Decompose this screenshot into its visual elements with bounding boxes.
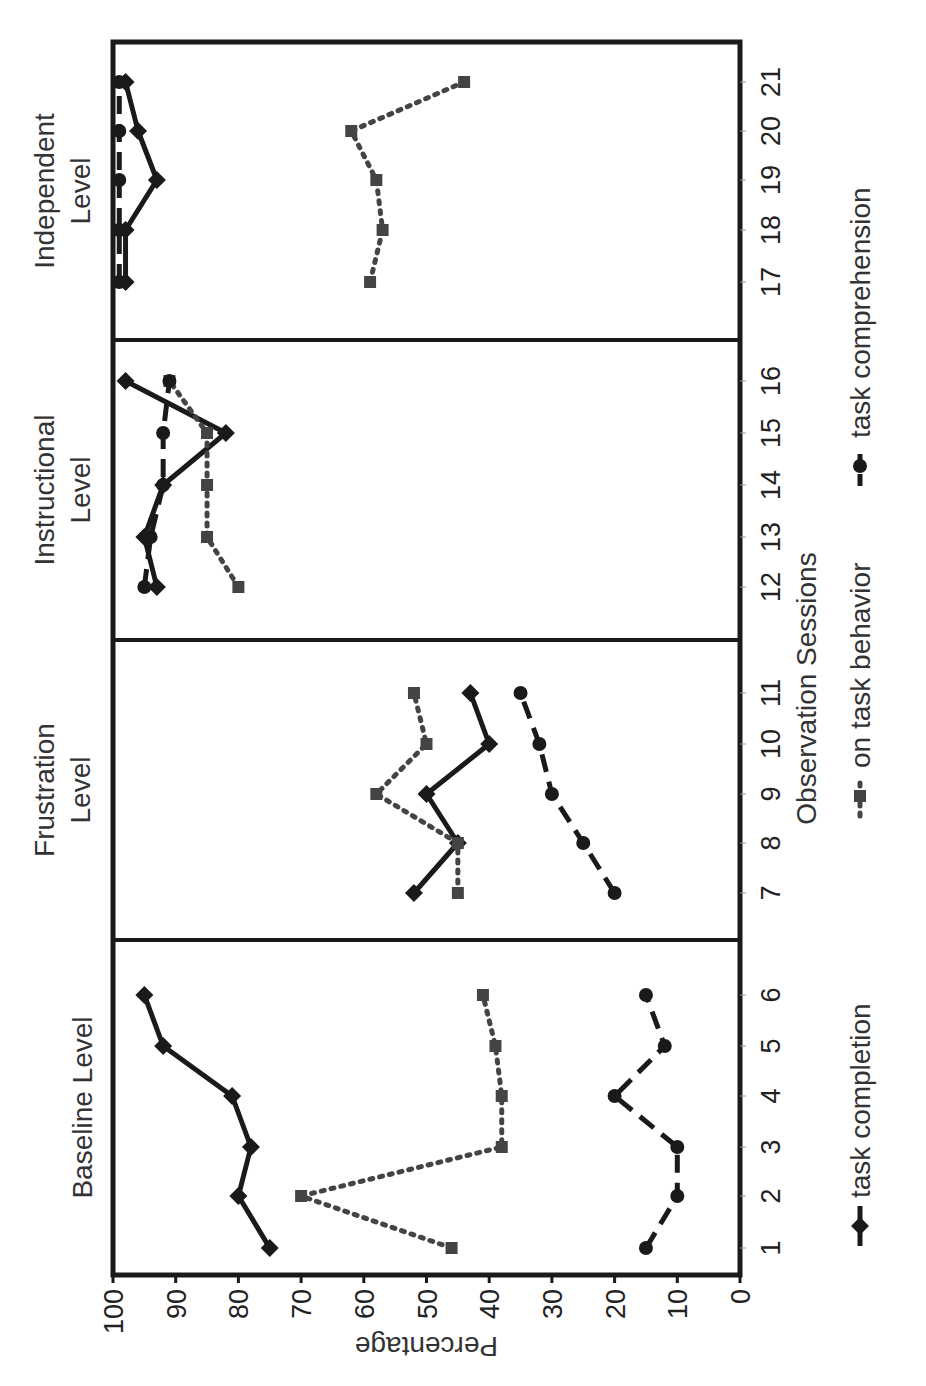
y-tick-label: 40 [475,1289,505,1319]
x-tick-label: 3 [756,1139,786,1154]
data-series [112,73,684,1257]
x-tick-label: 18 [756,215,786,245]
legend-label: on task behavior [845,563,876,768]
x-tick-label: 9 [756,786,786,801]
legend-item: task comprehension [845,187,876,486]
y-tick-label: 60 [350,1289,380,1319]
x-tick-label: 10 [756,729,786,759]
phase-label: Instructional [29,415,60,566]
legend-label: task comprehension [845,187,876,438]
phase-label: Baseline Level [67,1016,98,1198]
x-tick-label: 15 [756,418,786,448]
series-on-task-behavior [163,76,507,1254]
x-tick-label: 2 [756,1188,786,1203]
x-tick-label: 20 [756,116,786,146]
legend: task completionon task behaviortask comp… [845,187,876,1246]
phase-labels: Baseline LevelFrustrationLevelInstructio… [29,113,98,1199]
x-tick-label: 6 [756,987,786,1002]
plot-frame [113,42,740,1275]
y-axis-title: Percentage [355,1331,498,1362]
x-tick-label: 1 [756,1240,786,1255]
series-task-comprehension [112,75,684,1255]
x-tick-label: 14 [756,470,786,500]
legend-item: task completion [845,1003,876,1246]
phase-label: Level [65,457,96,524]
x-tick-label: 13 [756,522,786,552]
rotated-chart: Baseline LevelFrustrationLevelInstructio… [0,0,926,1386]
legend-label: task completion [845,1003,876,1198]
y-tick-label: 10 [663,1289,693,1319]
y-tick-label: 0 [726,1289,756,1304]
x-tick-label: 16 [756,366,786,396]
x-axis-title: Observation Sessions [791,552,822,824]
x-tick-label: 11 [756,679,786,707]
phase-label: Level [65,757,96,824]
x-axis: 123456789101112131415161718192021 [740,67,786,1256]
x-tick-label: 4 [756,1088,786,1103]
y-tick-label: 20 [601,1289,631,1319]
x-tick-label: 12 [756,572,786,602]
y-axis: 0102030405060708090100 [99,1275,756,1334]
y-tick-label: 80 [224,1289,254,1319]
x-tick-label: 19 [756,165,786,195]
line-chart: Baseline LevelFrustrationLevelInstructio… [0,0,926,1386]
y-tick-label: 30 [538,1289,568,1319]
phase-label: Frustration [29,723,60,857]
x-tick-label: 17 [756,267,786,297]
y-tick-label: 50 [413,1289,443,1319]
x-tick-label: 21 [756,67,786,97]
x-tick-label: 7 [756,885,786,900]
y-tick-label: 70 [287,1289,317,1319]
phase-label: Independent [29,113,60,269]
y-tick-label: 100 [99,1289,129,1334]
series-task-completion [117,73,499,1257]
x-tick-label: 8 [756,835,786,850]
legend-item: on task behavior [845,563,876,816]
phase-label: Level [65,158,96,225]
x-tick-label: 5 [756,1038,786,1053]
y-tick-label: 90 [162,1289,192,1319]
